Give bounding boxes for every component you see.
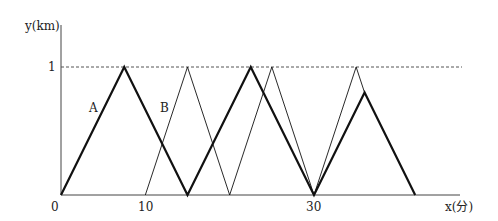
tick-label-x10: 10 xyxy=(138,200,153,214)
tick-label-y1: 1 xyxy=(48,60,56,74)
chart: y(km) x(分) 0 10 30 1 A B xyxy=(0,0,498,221)
x-axis-label: x(分) xyxy=(445,200,473,214)
plot-area: y(km) x(分) 0 10 30 1 A B xyxy=(0,0,498,221)
series-label-a: A xyxy=(88,101,98,115)
tick-label-x30: 30 xyxy=(306,200,321,214)
tick-label-origin: 0 xyxy=(51,200,59,214)
series-label-b: B xyxy=(160,101,169,115)
y-axis-label: y(km) xyxy=(24,19,60,33)
